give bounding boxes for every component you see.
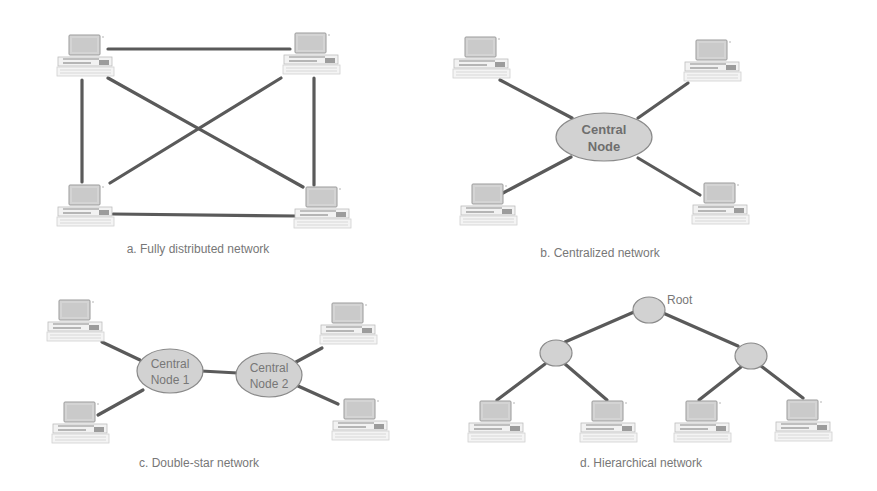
computer-icon: [47, 300, 104, 341]
panel-hierarchical: Root d. Hierarchical network: [468, 293, 832, 470]
central-node-2-label-line2: Node 2: [250, 377, 289, 391]
computer-icon: [320, 303, 377, 344]
root-label: Root: [667, 293, 693, 307]
link: [113, 214, 296, 216]
link: [201, 371, 238, 373]
panel-centralized: Central Node b. Centralized network: [453, 37, 749, 260]
link: [638, 83, 688, 118]
computer-icon: [684, 40, 741, 81]
link: [699, 367, 741, 400]
link: [503, 157, 571, 193]
computer-icon: [283, 33, 340, 74]
link: [102, 342, 140, 360]
computer-icon: [692, 183, 749, 224]
link: [296, 348, 322, 362]
mid-node-left: [540, 340, 572, 366]
link: [98, 390, 143, 415]
central-node-label-line1: Central: [582, 122, 627, 137]
root-node: [633, 297, 665, 323]
link: [497, 364, 545, 400]
link: [761, 366, 803, 398]
link: [565, 364, 607, 400]
panel-fully-distributed: a. Fully distributed network: [57, 33, 351, 256]
caption-a: a. Fully distributed network: [127, 242, 271, 256]
computer-icon: [332, 399, 389, 440]
computer-icon: [294, 187, 351, 228]
link: [298, 386, 338, 404]
network-topologies-figure: a. Fully distributed network Central Nod…: [0, 0, 877, 491]
computer-icon: [775, 400, 832, 441]
link: [565, 312, 634, 342]
computer-icon: [52, 402, 109, 443]
caption-d: d. Hierarchical network: [580, 456, 703, 470]
link: [663, 313, 738, 346]
link: [500, 80, 572, 118]
computer-icon: [57, 185, 114, 226]
caption-b: b. Centralized network: [540, 246, 660, 260]
central-node-2-label-line1: Central: [250, 361, 289, 375]
central-node-1-label-line1: Central: [151, 357, 190, 371]
central-node-1-label-line2: Node 1: [151, 373, 190, 387]
computer-icon: [453, 37, 510, 78]
central-node-label-line2: Node: [588, 139, 621, 154]
panel-double-star: Central Node 1 Central Node 2 c. Double-…: [47, 300, 389, 470]
caption-c: c. Double-star network: [139, 456, 260, 470]
computer-icon: [580, 401, 637, 442]
computer-icon: [674, 401, 731, 442]
computer-icon: [468, 401, 525, 442]
link: [638, 158, 700, 195]
link: [108, 78, 303, 187]
mid-node-right: [735, 343, 767, 369]
computer-icon: [57, 35, 114, 76]
